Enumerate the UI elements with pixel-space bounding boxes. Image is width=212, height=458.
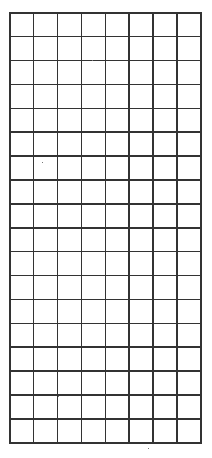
grid-vertical-line (128, 12, 130, 444)
grid-vertical-line (105, 12, 107, 444)
grid-vertical-line (33, 12, 35, 444)
speck (42, 162, 43, 163)
grid (9, 12, 200, 442)
speck (92, 60, 93, 61)
grid-vertical-line (200, 12, 202, 444)
grid-vertical-line (81, 12, 83, 444)
speck (58, 396, 59, 397)
grid-vertical-line (176, 12, 178, 444)
speck (148, 448, 149, 449)
grid-vertical-line (9, 12, 11, 444)
grid-vertical-line (57, 12, 59, 444)
grid-vertical-line (152, 12, 154, 444)
